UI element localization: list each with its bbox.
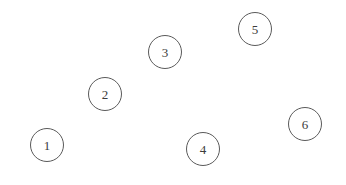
node-label-1: 1 bbox=[44, 138, 51, 151]
node-label-4: 4 bbox=[200, 142, 207, 155]
node-circle-2[interactable]: 2 bbox=[88, 77, 122, 111]
node-label-3: 3 bbox=[162, 45, 169, 58]
node-label-6: 6 bbox=[302, 117, 309, 130]
node-circle-5[interactable]: 5 bbox=[238, 12, 272, 46]
diagram-canvas: 1 2 3 4 5 6 bbox=[0, 0, 346, 185]
node-circle-4[interactable]: 4 bbox=[186, 132, 220, 166]
node-label-5: 5 bbox=[252, 22, 259, 35]
node-circle-6[interactable]: 6 bbox=[288, 107, 322, 141]
node-label-2: 2 bbox=[102, 87, 109, 100]
node-circle-3[interactable]: 3 bbox=[148, 35, 182, 69]
node-circle-1[interactable]: 1 bbox=[30, 128, 64, 162]
